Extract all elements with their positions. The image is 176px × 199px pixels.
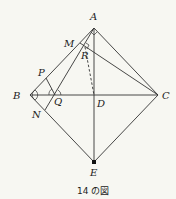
label-A: A [89, 11, 97, 22]
angle-mark-Q [49, 89, 52, 95]
label-M: M [63, 38, 75, 49]
label-B: B [12, 90, 20, 101]
label-P: P [37, 67, 45, 78]
segment-PQ [46, 78, 55, 95]
label-Q: Q [54, 96, 62, 107]
label-R: R [80, 50, 89, 61]
segment-MC [80, 43, 158, 95]
angle-mark-Q-right [58, 90, 61, 95]
figure-caption: 14 の図 [77, 186, 109, 196]
point-E-marker [92, 160, 96, 164]
segment-AC [94, 28, 158, 95]
label-N: N [31, 109, 42, 120]
label-C: C [162, 90, 170, 101]
label-D: D [96, 98, 105, 109]
right-angle-mark-R [86, 43, 89, 49]
geometry-figure: A B C D E M R P Q N 14 の図 [0, 0, 176, 199]
label-E: E [89, 167, 98, 178]
segment-AB [30, 28, 94, 95]
